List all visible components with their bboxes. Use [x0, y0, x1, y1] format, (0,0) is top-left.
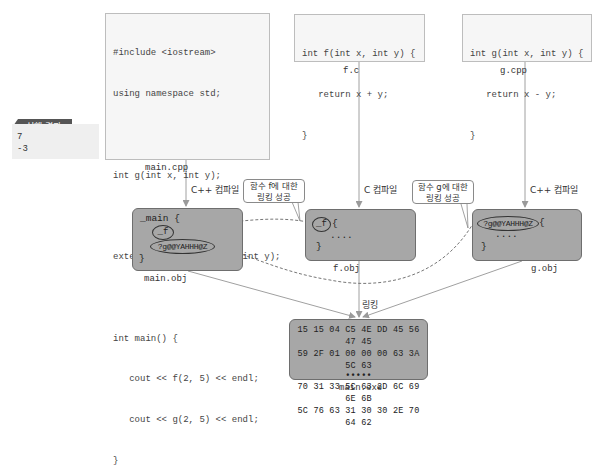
step-linking: 링킹: [362, 298, 378, 311]
obj-line: }: [316, 241, 322, 252]
executable-main-exe: 15 15 04 C5 4E DD 45 56 47 45 59 2F 01 0…: [289, 319, 428, 380]
callout-f-link: 함수 f에 대한 링킹 성공: [243, 179, 305, 203]
obj-line: {: [332, 218, 338, 229]
object-f-obj: _f { .... }: [305, 209, 416, 261]
symbol-g: ?g@@YAHHH@Z: [158, 242, 208, 251]
f-obj-label: f.obj: [333, 264, 360, 274]
callout-text: 함수 g에 대한: [415, 182, 471, 193]
code-line: cout << g(2, 5) << endl;: [113, 414, 262, 428]
code-line: [113, 292, 262, 306]
code-line: [113, 129, 262, 143]
symbol-f-ellipse: _f: [152, 225, 174, 240]
obj-line: {: [539, 217, 545, 228]
main-exe-label: main.exe: [339, 383, 382, 393]
callout-text: 링킹 성공: [246, 192, 302, 203]
callout-g-link: 함수 g에 대한 링킹 성공: [412, 180, 474, 204]
code-line: #include <iostream>: [113, 47, 262, 61]
main-cpp-label: main.cpp: [145, 163, 188, 173]
f-c-label: f.c: [343, 66, 359, 76]
code-line: cout << f(2, 5) << endl;: [113, 373, 262, 387]
code-line: }: [113, 455, 262, 469]
result-line: 7: [17, 131, 94, 143]
hex-row: 15 15 04 C5 4E DD 45 56 47 45: [290, 324, 427, 348]
code-line: return x - y;: [470, 89, 584, 103]
obj-line: ....: [495, 229, 518, 240]
code-line: int f(int x, int y) {: [302, 48, 417, 62]
hex-ellipsis: •••••: [290, 372, 427, 381]
code-line: return x + y;: [302, 89, 417, 103]
obj-line: _main {: [140, 213, 180, 224]
step-f-compile: C 컴파일: [364, 183, 397, 196]
code-line: }: [470, 130, 584, 144]
main-obj-label: main.obj: [144, 274, 187, 284]
source-main-cpp: #include <iostream> using namespace std;…: [105, 13, 270, 160]
symbol-f-ellipse: _f: [312, 217, 331, 232]
symbol-f: _f: [316, 219, 327, 229]
hex-row: 5C 76 63 31 30 30 2E 70 64 62: [290, 405, 427, 429]
g-obj-label: g.obj: [531, 264, 558, 274]
callout-text: 함수 f에 대한: [246, 181, 302, 192]
symbol-f: _f: [158, 227, 169, 237]
step-g-compile: C++ 컴파일: [530, 183, 578, 196]
obj-line: ....: [330, 230, 353, 241]
g-cpp-label: g.cpp: [500, 66, 527, 76]
hex-row: 59 2F 01 00 00 00 63 3A 5C 63: [290, 348, 427, 372]
source-f-c: int f(int x, int y) { return x + y; }: [294, 14, 425, 62]
object-main-obj: _main { _f ?g@@YAHHH@Z }: [132, 208, 243, 271]
symbol-g: ?g@@YAHHH@Z: [483, 219, 533, 228]
code-line: int main() {: [113, 333, 262, 347]
obj-line: }: [481, 241, 487, 252]
code-line: int g(int x, int y) {: [470, 48, 584, 62]
result-lines: 7 -3: [12, 124, 99, 159]
callout-text: 링킹 성공: [415, 193, 471, 204]
obj-line: }: [139, 253, 145, 264]
source-g-cpp: int g(int x, int y) { return x - y; }: [462, 14, 592, 62]
code-line: using namespace std;: [113, 88, 262, 102]
step-main-compile: C++ 컴파일: [191, 183, 239, 196]
symbol-g-ellipse: ?g@@YAHHH@Z: [150, 239, 215, 254]
result-line: -3: [17, 143, 94, 155]
object-g-obj: ?g@@YAHHH@Z { .... }: [472, 209, 582, 261]
code-line: }: [302, 130, 417, 144]
